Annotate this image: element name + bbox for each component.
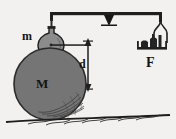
label-large-mass: M [36, 77, 48, 90]
large-sphere-mass [14, 48, 86, 120]
label-force-side: F [146, 56, 155, 70]
center-line-small-mass [51, 44, 87, 46]
fulcrum-triangle-icon [101, 15, 117, 26]
label-distance: d [79, 58, 86, 70]
ground-line [6, 115, 170, 125]
pan-weights [141, 34, 162, 47]
physics-diagram: m M d F [0, 0, 176, 139]
label-small-mass: m [22, 30, 32, 42]
